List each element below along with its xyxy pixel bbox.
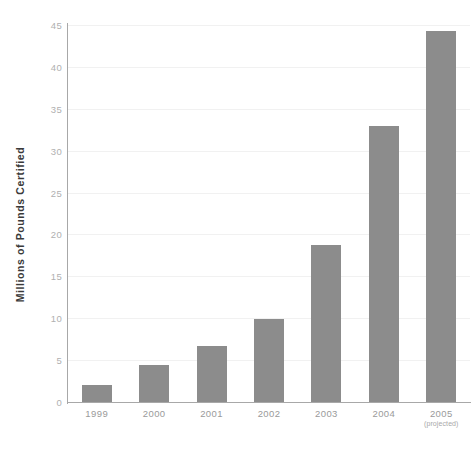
gridline [68,109,470,110]
y-tick-label: 35 [22,103,62,114]
bar-chart: Millions of Pounds Certified 05101520253… [0,0,475,449]
bar [369,126,399,402]
x-tick-sublabel: (projected) [413,420,470,427]
bar [139,365,169,402]
gridline [68,25,470,26]
x-tick-label: 2003 [298,408,355,419]
gridline [68,67,470,68]
y-axis-tick-labels: 051015202530354045 [18,0,62,449]
y-tick-label: 10 [22,313,62,324]
bar [82,385,112,402]
x-tick-label: 2001 [183,408,240,419]
bar [426,31,456,402]
gridline [68,151,470,152]
y-tick-label: 5 [22,355,62,366]
y-tick-label: 15 [22,271,62,282]
x-tick-label: 1999 [68,408,125,419]
x-axis-line [67,402,471,403]
gridline [68,193,470,194]
x-tick-label: 2005(projected) [413,408,470,427]
x-tick-label: 2002 [240,408,297,419]
bar [311,245,341,402]
gridline [68,234,470,235]
x-tick-label: 2004 [355,408,412,419]
y-tick-label: 45 [22,20,62,31]
x-tick-label: 2000 [125,408,182,419]
bar [254,319,284,402]
y-tick-label: 0 [22,397,62,408]
y-tick-label: 40 [22,61,62,72]
y-tick-label: 25 [22,187,62,198]
y-tick-label: 20 [22,229,62,240]
bar [197,346,227,402]
gridline [68,276,470,277]
y-tick-label: 30 [22,145,62,156]
plot-area [68,25,470,402]
